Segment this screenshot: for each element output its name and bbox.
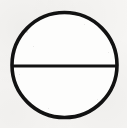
line-drawing: Circle with horizontal diameter: [0, 0, 127, 128]
figure-canvas: Circle with horizontal diameter: [0, 0, 127, 128]
